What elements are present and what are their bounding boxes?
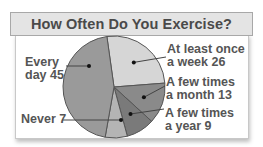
label-yearly-line2: a year 9 [165,120,234,133]
callout-dot-weekly [132,60,136,64]
label-yearly: A few times a year 9 [165,107,234,133]
label-monthly-line2: a month 13 [166,89,235,102]
pie-slices [63,36,165,138]
label-never-text: Never 7 [21,113,66,126]
pie-slice-every-day [63,37,114,138]
callout-dot-every-day [87,64,91,68]
label-weekly-line2: a week 26 [167,56,245,69]
label-monthly: A few times a month 13 [166,76,235,102]
callout-dot-never [119,118,123,122]
pie-slice-weekly [107,36,165,87]
label-never: Never 7 [21,113,66,126]
label-weekly: At least once a week 26 [167,43,245,69]
label-every-day: Every day 45 [25,56,64,82]
callout-dot-yearly [129,112,133,116]
callout-dot-monthly [142,95,146,99]
label-every-day-line2: day 45 [25,69,64,82]
